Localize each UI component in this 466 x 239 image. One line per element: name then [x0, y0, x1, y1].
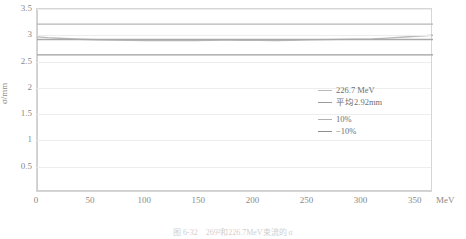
legend-color-swatch [318, 119, 332, 120]
legend-color-swatch [318, 90, 332, 91]
y-axis-tick-label: 2.5 [0, 57, 32, 66]
legend-item[interactable]: 平均2.92mm [318, 96, 382, 108]
y-axis-tick-label: 1 [0, 135, 32, 144]
legend-item-label: 10% [336, 115, 352, 124]
y-axis-tick-label: 1.5 [0, 109, 32, 118]
x-axis-tick-label: 50 [70, 196, 110, 205]
gridline-y [37, 35, 431, 36]
gridline-y [37, 140, 431, 141]
x-axis-tick-label: 300 [341, 196, 381, 205]
x-axis-tick-label: 100 [124, 196, 164, 205]
figure-caption: 图 6-32 269²和226.7MeV束流的 σ [0, 228, 466, 238]
legend-item[interactable]: 10% [318, 113, 382, 125]
gridline-y [37, 9, 431, 10]
legend-item-label: 226.7 MeV [336, 86, 375, 95]
y-axis-tick-label: 3.5 [0, 4, 32, 13]
x-axis-tick-label: 350 [395, 196, 435, 205]
legend-item[interactable]: 226.7 MeV [318, 84, 382, 96]
gridline-y [37, 167, 431, 168]
legend-item-label: 平均2.92mm [336, 98, 382, 107]
x-axis-tick-label: 250 [286, 196, 326, 205]
x-axis-tick-label: 150 [178, 196, 218, 205]
legend-item[interactable]: −10% [318, 125, 382, 137]
legend-color-swatch [318, 102, 332, 103]
y-axis-tick-label: 3 [0, 30, 32, 39]
x-axis-tick-label: 0 [16, 196, 56, 205]
chart-legend: 226.7 MeV平均2.92mm10%−10% [318, 84, 382, 137]
x-axis-tick-label: 200 [232, 196, 272, 205]
figure-container: σ/mm 226.7 MeV平均2.92mm10%−10% 图 6-32 269… [0, 0, 466, 239]
legend-item-label: −10% [336, 127, 356, 136]
y-axis-tick-label: 0.5 [0, 162, 32, 171]
gridline-y [37, 62, 431, 63]
x-axis-unit-label: MeV [436, 196, 455, 205]
legend-color-swatch [318, 131, 332, 132]
y-axis-tick-label: 2 [0, 83, 32, 92]
